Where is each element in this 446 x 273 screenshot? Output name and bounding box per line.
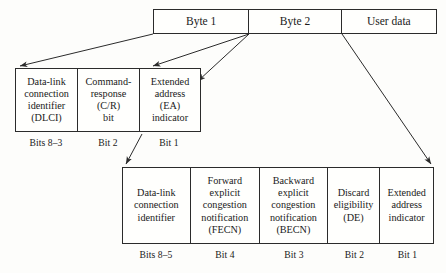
field-line: Discard	[334, 187, 374, 199]
bit-label: Bit 2	[77, 137, 139, 148]
field-command-response: Command- response (C/R) bit	[78, 69, 140, 131]
bit-label: Bit 2	[328, 249, 381, 260]
bit-label: Bit 1	[381, 249, 434, 260]
field-line: Extended	[151, 76, 189, 88]
frame-cell-byte-2: Byte 2	[249, 10, 341, 33]
field-line: congestion	[201, 199, 248, 211]
field-line: (EA)	[151, 100, 189, 112]
byte-1-expansion-row: Data-link connection identifier (DLCI) C…	[15, 68, 201, 132]
bit-label: Bit 1	[139, 137, 199, 148]
field-dlci-byte1: Data-link connection identifier (DLCI)	[16, 69, 78, 131]
field-line: Data-link	[24, 76, 69, 88]
field-line: identifier	[24, 100, 69, 112]
field-line: address	[151, 88, 189, 100]
frame-relay-address-diagram: Byte 1 Byte 2 User data Data-link connec…	[0, 0, 446, 273]
frame-cell-user-data: User data	[342, 10, 436, 33]
connector-byte1-right	[153, 34, 249, 66]
field-line: indicator	[387, 212, 425, 224]
frame-cell-byte-1: Byte 1	[154, 10, 249, 33]
field-line: (C/R)	[86, 100, 132, 112]
field-line: identifier	[134, 212, 179, 224]
bit-label: Bit 4	[190, 249, 260, 260]
field-line: Command-	[86, 76, 132, 88]
bit-label: Bit 3	[260, 249, 328, 260]
connector-byte1-left	[20, 34, 153, 66]
field-line: indicator	[151, 112, 189, 124]
field-becn: Backward explicit congestion notificatio…	[260, 168, 328, 243]
field-line: response	[86, 88, 132, 100]
field-line: congestion	[270, 199, 317, 211]
field-line: Data-link	[134, 187, 179, 199]
field-line: connection	[24, 88, 69, 100]
field-line: notification	[270, 212, 317, 224]
field-extended-address-byte2: Extended address indicator	[380, 168, 433, 243]
field-line: Extended	[387, 187, 425, 199]
connector-byte2-right	[342, 34, 431, 164]
field-line: bit	[86, 112, 132, 124]
field-line: (DE)	[334, 212, 374, 224]
bit-label: Bits 8–5	[122, 249, 190, 260]
field-extended-address-byte1: Extended address (EA) indicator	[140, 69, 200, 131]
field-line: (DLCI)	[24, 112, 69, 124]
field-dlci-byte2: Data-link connection identifier	[123, 168, 191, 243]
frame-structure-row: Byte 1 Byte 2 User data	[153, 9, 437, 34]
byte-2-expansion-row: Data-link connection identifier Forward …	[122, 167, 434, 244]
field-line: (FECN)	[201, 224, 248, 236]
field-line: eligibility	[334, 199, 374, 211]
byte-1-bit-labels: Bits 8–3 Bit 2 Bit 1	[15, 137, 201, 148]
field-line: explicit	[201, 187, 248, 199]
byte-2-bit-labels: Bits 8–5 Bit 4 Bit 3 Bit 2 Bit 1	[122, 249, 434, 260]
field-line: notification	[201, 212, 248, 224]
field-line: address	[387, 199, 425, 211]
connector-byte1-right-side	[198, 34, 249, 81]
bit-label: Bits 8–3	[15, 137, 77, 148]
field-line: connection	[134, 199, 179, 211]
field-line: Backward	[270, 175, 317, 187]
field-line: Forward	[201, 175, 248, 187]
field-line: (BECN)	[270, 224, 317, 236]
field-fecn: Forward explicit congestion notification…	[191, 168, 261, 243]
field-discard-eligibility: Discard eligibility (DE)	[328, 168, 381, 243]
field-line: explicit	[270, 187, 317, 199]
